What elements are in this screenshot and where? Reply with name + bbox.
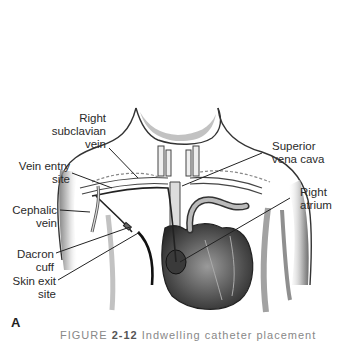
label-line: site — [10, 173, 70, 186]
label-vein-entry-site: Vein entry site — [10, 160, 70, 186]
label-line: cuff — [4, 261, 54, 274]
caption-rest: Indwelling catheter placement — [142, 329, 317, 341]
label-line: Vein entry — [10, 160, 70, 173]
label-line: site — [2, 288, 56, 301]
label-cephalic-vein: Cephalic vein — [4, 204, 57, 230]
label-line: vein — [40, 138, 106, 151]
label-right-subclavian-vein: Right subclavian vein — [40, 112, 106, 151]
label-right-atrium: Right atrium — [300, 186, 332, 212]
label-line: Right — [300, 186, 332, 199]
label-line: Superior — [272, 140, 324, 153]
figure-caption: FIGURE 2-12 Indwelling catheter placemen… — [60, 329, 316, 341]
label-skin-exit-site: Skin exit site — [2, 275, 56, 301]
label-line: vein — [4, 217, 57, 230]
caption-number: 2-12 — [112, 329, 138, 341]
neck-vessels — [158, 146, 199, 176]
label-line: vena cava — [272, 153, 324, 166]
label-superior-vena-cava: Superior vena cava — [272, 140, 324, 166]
caption-prefix: FIGURE — [60, 329, 108, 341]
label-line: atrium — [300, 199, 332, 212]
label-dacron-cuff: Dacron cuff — [4, 248, 54, 274]
panel-letter: A — [11, 315, 20, 330]
external-catheter — [138, 232, 152, 285]
label-line: Dacron — [4, 248, 54, 261]
label-line: Cephalic — [4, 204, 57, 217]
label-line: subclavian — [40, 125, 106, 138]
label-line: Right — [40, 112, 106, 125]
label-line: Skin exit — [2, 275, 56, 288]
